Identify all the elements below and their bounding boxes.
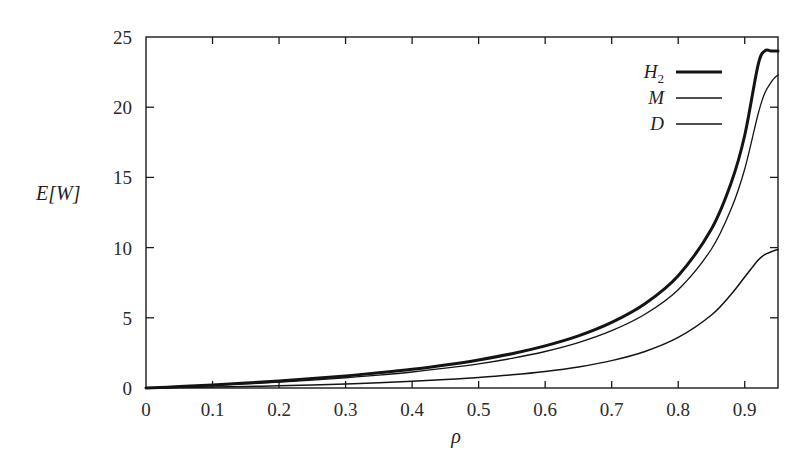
chart-legend: H2MD xyxy=(643,61,722,134)
series-line-h2 xyxy=(146,50,778,388)
legend-label-d: D xyxy=(649,113,664,134)
y-tick-label: 0 xyxy=(123,378,133,399)
x-axis-title: ρ xyxy=(450,425,461,448)
series-line-m xyxy=(146,75,778,388)
x-axis-ticks xyxy=(213,37,745,388)
x-tick-label: 0.4 xyxy=(400,399,424,420)
y-axis-tick-labels: 0510152025 xyxy=(113,27,132,399)
x-tick-label: 0.8 xyxy=(666,399,690,420)
x-tick-label: 0.3 xyxy=(334,399,358,420)
y-tick-label: 20 xyxy=(113,97,132,118)
x-tick-label: 0.5 xyxy=(467,399,491,420)
y-tick-label: 25 xyxy=(113,27,132,48)
legend-label-m: M xyxy=(647,87,665,108)
y-axis-ticks xyxy=(146,107,778,318)
y-tick-label: 15 xyxy=(113,167,132,188)
x-tick-label: 0.6 xyxy=(533,399,557,420)
x-axis-tick-labels: 00.10.20.30.40.50.60.70.80.9 xyxy=(141,399,756,420)
legend-label-h2: H2 xyxy=(643,61,664,86)
x-tick-label: 0.2 xyxy=(267,399,291,420)
y-axis-title: E[W] xyxy=(35,182,80,204)
chart-figure: 00.10.20.30.40.50.60.70.80.9 0510152025 … xyxy=(0,0,810,454)
x-tick-label: 0.1 xyxy=(201,399,225,420)
x-tick-label: 0 xyxy=(141,399,151,420)
series-curves xyxy=(146,50,778,388)
x-tick-label: 0.7 xyxy=(600,399,624,420)
line-chart-canvas: 00.10.20.30.40.50.60.70.80.9 0510152025 … xyxy=(0,0,810,454)
y-tick-label: 10 xyxy=(113,238,132,259)
x-tick-label: 0.9 xyxy=(733,399,757,420)
y-tick-label: 5 xyxy=(123,308,133,329)
